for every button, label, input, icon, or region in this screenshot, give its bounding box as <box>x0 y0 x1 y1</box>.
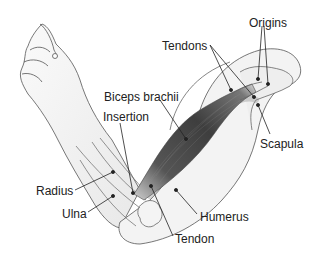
label-origins: Origins <box>249 17 287 30</box>
label-scapula: Scapula <box>260 138 303 151</box>
label-humerus: Humerus <box>200 211 249 224</box>
label-tendon: Tendon <box>175 233 214 246</box>
label-ulna: Ulna <box>62 208 87 221</box>
label-tendons: Tendons <box>162 40 207 53</box>
biceps-anatomy-diagram: Origins Tendons Biceps brachii Insertion… <box>0 0 322 256</box>
arm-illustration <box>0 0 322 256</box>
elbow-joint <box>138 201 162 227</box>
label-insertion: Insertion <box>103 111 149 124</box>
label-biceps-brachii: Biceps brachii <box>104 91 179 104</box>
label-radius: Radius <box>36 185 73 198</box>
